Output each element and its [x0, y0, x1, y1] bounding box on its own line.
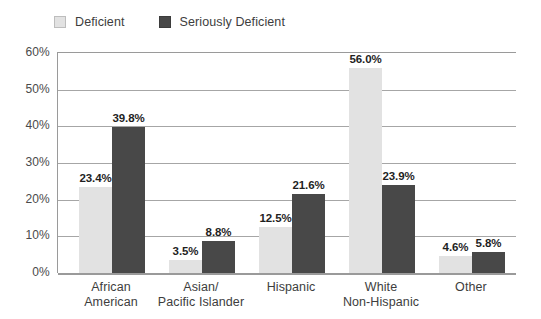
- bar-value-hispanic-deficient: 12.5%: [259, 212, 291, 224]
- bar-value-asian-pacific-islander-deficient: 3.5%: [173, 245, 199, 257]
- bar-white-non-hispanic-deficient[interactable]: 56.0%: [349, 68, 382, 273]
- bar-other-deficient[interactable]: 4.6%: [439, 256, 472, 273]
- x-axis-label-line1: Asian/: [183, 280, 218, 294]
- x-axis-label-line1: Hispanic: [267, 280, 316, 294]
- legend-label-seriously-deficient: Seriously Deficient: [180, 15, 285, 29]
- legend-item-deficient[interactable]: Deficient: [54, 15, 125, 29]
- bar-hispanic-seriously-deficient[interactable]: 21.6%: [292, 194, 325, 273]
- gridline-baseline-0: [58, 273, 516, 275]
- bar-group-other: 4.6% 5.8% Other: [418, 53, 524, 273]
- bar-asian-pacific-islander-deficient[interactable]: 3.5%: [169, 260, 202, 273]
- bar-value-african-american-seriously-deficient: 39.8%: [112, 112, 144, 124]
- bar-asian-pacific-islander-seriously-deficient[interactable]: 8.8%: [202, 241, 235, 273]
- x-axis-label-other: Other: [416, 280, 526, 295]
- x-axis-label-line2: Pacific Islander: [146, 295, 256, 310]
- x-axis-label-line1: Other: [455, 280, 487, 294]
- y-axis-tick-30: 30%: [6, 155, 50, 169]
- chart-legend: Deficient Seriously Deficient: [54, 11, 285, 33]
- x-axis-label-line1: African: [91, 280, 131, 294]
- legend-swatch-deficient: [54, 16, 66, 28]
- bar-chart: Deficient Seriously Deficient 60% 50% 40…: [0, 0, 541, 319]
- bar-value-asian-pacific-islander-seriously-deficient: 8.8%: [206, 226, 232, 238]
- plot-area: 23.4% 39.8% African American 3.5% 8.8%: [57, 52, 516, 273]
- bar-white-non-hispanic-seriously-deficient[interactable]: 23.9%: [382, 185, 415, 273]
- y-axis-tick-50: 50%: [6, 82, 50, 96]
- bar-groups: 23.4% 39.8% African American 3.5% 8.8%: [58, 53, 516, 273]
- y-axis-tick-40: 40%: [6, 118, 50, 132]
- y-axis-tick-10: 10%: [6, 228, 50, 242]
- bar-african-american-seriously-deficient[interactable]: 39.8%: [112, 127, 145, 273]
- bar-value-african-american-deficient: 23.4%: [79, 172, 111, 184]
- legend-item-seriously-deficient[interactable]: Seriously Deficient: [159, 15, 285, 29]
- bar-value-hispanic-seriously-deficient: 21.6%: [292, 179, 324, 191]
- legend-label-deficient: Deficient: [75, 15, 125, 29]
- y-axis-tick-0: 0%: [6, 265, 50, 279]
- legend-swatch-seriously-deficient: [159, 16, 171, 28]
- bar-african-american-deficient[interactable]: 23.4%: [79, 187, 112, 273]
- x-axis-label-line2: Non-Hispanic: [326, 295, 436, 310]
- bar-value-other-seriously-deficient: 5.8%: [476, 237, 502, 249]
- bar-value-other-deficient: 4.6%: [443, 241, 469, 253]
- y-axis-tick-60: 60%: [6, 45, 50, 59]
- y-axis-tick-20: 20%: [6, 192, 50, 206]
- bar-value-white-non-hispanic-seriously-deficient: 23.9%: [382, 170, 414, 182]
- x-axis-label-line1: White: [365, 280, 397, 294]
- bar-hispanic-deficient[interactable]: 12.5%: [259, 227, 292, 273]
- bar-other-seriously-deficient[interactable]: 5.8%: [472, 252, 505, 273]
- bar-value-white-non-hispanic-deficient: 56.0%: [349, 53, 381, 65]
